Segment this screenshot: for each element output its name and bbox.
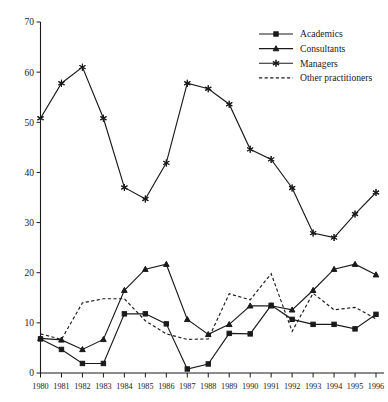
x-tick-label: 1988 — [200, 382, 216, 391]
series-marker-consultants — [352, 261, 358, 266]
y-tick-label: 40 — [25, 168, 35, 178]
y-tick-label: 60 — [25, 68, 35, 78]
x-tick-label: 1993 — [305, 382, 321, 391]
x-tick-label: 1996 — [368, 382, 384, 391]
series-marker-academics — [227, 331, 231, 335]
chart-canvas: 0102030405060701980198119821983198419851… — [0, 0, 388, 402]
series-marker-consultants — [80, 347, 86, 352]
series-line-academics — [41, 305, 377, 369]
x-tick-label: 1995 — [347, 382, 363, 391]
series-marker-consultants — [143, 266, 149, 271]
series-line-other-practitioners — [41, 274, 377, 340]
series-marker-consultants — [184, 316, 190, 321]
x-tick-label: 1985 — [137, 382, 153, 391]
series-marker-academics — [374, 312, 378, 316]
x-tick-label: 1983 — [95, 382, 111, 391]
series-marker-academics — [290, 317, 294, 321]
y-tick-label: 20 — [25, 268, 35, 278]
series-marker-academics — [122, 312, 126, 316]
series-marker-consultants — [59, 337, 65, 342]
x-tick-label: 1989 — [221, 382, 237, 391]
series-marker-academics — [248, 332, 252, 336]
legend-label-managers: Managers — [300, 58, 338, 69]
series-marker-academics — [332, 322, 336, 326]
series-marker-academics — [353, 327, 357, 331]
y-tick-label: 70 — [25, 17, 35, 27]
x-tick-label: 1987 — [179, 382, 195, 391]
y-tick-label: 10 — [25, 318, 35, 328]
y-tick-label: 0 — [29, 368, 34, 378]
series-marker-academics — [80, 361, 84, 365]
series-marker-consultants — [247, 303, 253, 308]
series-line-managers — [41, 67, 377, 237]
series-marker-consultants — [164, 261, 170, 266]
legend-marker-academics — [274, 32, 278, 36]
x-tick-label: 1990 — [242, 382, 258, 391]
x-tick-label: 1992 — [284, 382, 300, 391]
series-marker-consultants — [373, 272, 379, 277]
legend-label-other-practitioners: Other practitioners — [300, 72, 372, 83]
legend-label-academics: Academics — [300, 28, 343, 39]
series-marker-consultants — [101, 337, 107, 342]
series-marker-academics — [311, 322, 315, 326]
x-tick-label: 1991 — [263, 382, 279, 391]
series-marker-academics — [143, 312, 147, 316]
line-chart: 0102030405060701980198119821983198419851… — [0, 0, 388, 402]
x-tick-label: 1980 — [32, 382, 48, 391]
series-marker-academics — [101, 361, 105, 365]
legend-marker-consultants — [273, 46, 279, 51]
series-marker-consultants — [331, 266, 337, 271]
series-marker-academics — [185, 367, 189, 371]
x-tick-label: 1982 — [74, 382, 90, 391]
x-tick-label: 1984 — [116, 382, 132, 391]
series-marker-academics — [206, 362, 210, 366]
series-marker-academics — [164, 322, 168, 326]
x-tick-label: 1994 — [326, 382, 342, 391]
x-tick-label: 1981 — [53, 382, 69, 391]
y-tick-label: 50 — [25, 118, 35, 128]
x-tick-label: 1986 — [158, 382, 174, 391]
y-tick-label: 30 — [25, 218, 35, 228]
legend-label-consultants: Consultants — [300, 43, 346, 54]
series-marker-academics — [59, 347, 63, 351]
